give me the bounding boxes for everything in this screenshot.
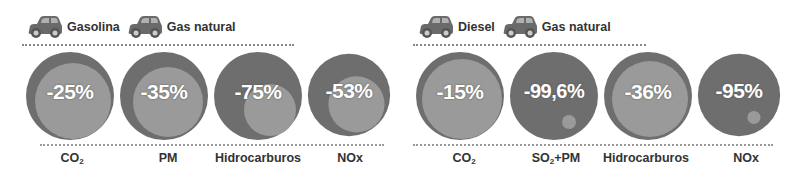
- divider: [40, 144, 384, 146]
- bubble-value: -95%: [696, 79, 782, 103]
- bubble-value: -53%: [306, 79, 392, 103]
- bubble-nox: -53%: [306, 52, 392, 138]
- category-label: Hidrocarburos: [596, 151, 696, 165]
- bubble-hidrocarburos: -36%: [602, 50, 694, 142]
- bubble-co2: -25%: [24, 50, 116, 142]
- bubble-so2-pm: -99,6%: [508, 50, 600, 142]
- panel-gasolina: Gasolina Gas natural -25% -35% -75% -53: [0, 0, 400, 183]
- legend-to: Gas natural: [542, 20, 611, 34]
- bubble-value: -35%: [118, 80, 210, 104]
- category-label: Hidrocarburos: [208, 151, 308, 165]
- bubble-nox: -95%: [696, 52, 782, 138]
- bubble-co2: -15%: [414, 50, 506, 142]
- panel-diesel: Diesel Gas natural -15% -99,6% -36% -95: [400, 0, 803, 183]
- legend-diesel: Diesel Gas natural: [417, 12, 617, 42]
- legend-from: Gasolina: [67, 20, 120, 34]
- bubble-value: -36%: [602, 80, 694, 104]
- category-label: NOx: [696, 151, 796, 165]
- category-label: NOx: [300, 151, 400, 165]
- bubble-pm: -35%: [118, 50, 210, 142]
- category-label: CO2: [414, 151, 514, 166]
- bubble-value: -75%: [212, 80, 304, 104]
- category-label: SO2+PM: [506, 151, 606, 166]
- car-icon: [126, 14, 164, 40]
- bubble-value: -99,6%: [508, 80, 600, 103]
- legend-to: Gas natural: [167, 20, 236, 34]
- divider: [413, 44, 646, 46]
- bubble-value: -15%: [414, 80, 506, 104]
- category-label: PM: [118, 151, 218, 165]
- bubble-hidrocarburos: -75%: [212, 50, 304, 142]
- legend-from: Diesel: [458, 20, 495, 34]
- car-icon: [501, 14, 539, 40]
- divider: [413, 144, 773, 146]
- bubble-value: -25%: [24, 80, 116, 104]
- category-label: CO2: [22, 151, 122, 166]
- car-icon: [26, 14, 64, 40]
- divider: [22, 44, 294, 46]
- legend-gasolina: Gasolina Gas natural: [26, 12, 242, 42]
- car-icon: [417, 14, 455, 40]
